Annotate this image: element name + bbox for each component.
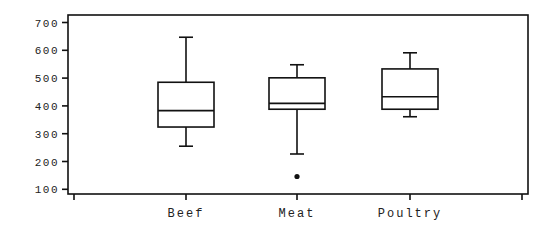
y-tick-label: 500 bbox=[35, 73, 59, 85]
y-tick-label: 700 bbox=[35, 18, 59, 30]
y-axis: 100200300400500600700 bbox=[35, 18, 68, 197]
box-poultry bbox=[382, 53, 438, 117]
iqr-box bbox=[382, 69, 438, 109]
x-category-label: Meat bbox=[279, 207, 316, 221]
iqr-box bbox=[269, 78, 325, 109]
box-beef bbox=[158, 37, 214, 146]
y-tick-label: 400 bbox=[35, 101, 59, 113]
x-axis: BeefMeatPoultry bbox=[74, 194, 522, 221]
boxes bbox=[158, 37, 438, 179]
y-tick-label: 300 bbox=[35, 129, 59, 141]
outlier-point bbox=[294, 174, 299, 179]
y-tick-label: 600 bbox=[35, 45, 59, 57]
box-plot-chart: 100200300400500600700 BeefMeatPoultry bbox=[0, 0, 556, 231]
x-category-label: Beef bbox=[168, 207, 205, 221]
y-tick-label: 100 bbox=[35, 184, 59, 196]
iqr-box bbox=[158, 82, 214, 127]
box-meat bbox=[269, 65, 325, 179]
x-category-label: Poultry bbox=[378, 207, 442, 221]
y-tick-label: 200 bbox=[35, 157, 59, 169]
